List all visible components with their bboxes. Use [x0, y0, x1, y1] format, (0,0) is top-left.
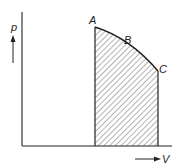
point-a-label: A — [88, 14, 96, 26]
x-axis-label: V — [162, 153, 171, 165]
p-arrow-icon — [11, 35, 16, 63]
y-axis-label: p — [10, 21, 17, 33]
point-b-label: B — [124, 34, 131, 46]
v-arrow-icon — [135, 157, 161, 162]
point-c-label: C — [159, 63, 167, 75]
pv-diagram: p V A B C — [0, 0, 182, 166]
